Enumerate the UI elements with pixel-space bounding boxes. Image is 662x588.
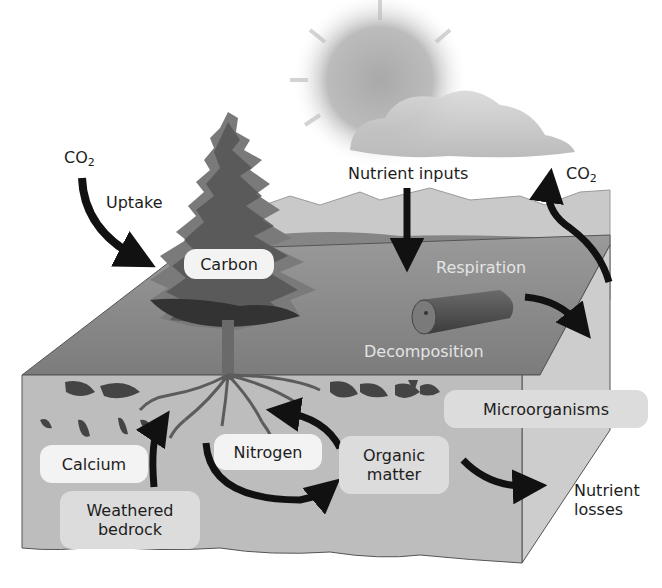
nutrient-text: Nutrient (574, 481, 640, 500)
co2-subscript: 2 (590, 172, 597, 185)
weathered-text: Weathered (86, 501, 173, 520)
bedrock-text: bedrock (98, 520, 162, 539)
organic-text: Organic (363, 446, 425, 465)
nutrient-inputs-label: Nutrient inputs (348, 164, 468, 183)
decomposition-label: Decomposition (364, 342, 484, 361)
co2-right-label: CO2 (566, 164, 597, 188)
nitrogen-label: Nitrogen (214, 434, 322, 470)
uptake-label: Uptake (106, 193, 162, 212)
co2-left-label: CO2 (64, 148, 95, 172)
ground-surface (22, 235, 610, 375)
organic-matter-label: Organic matter (339, 436, 449, 494)
microorganisms-label: Microorganisms (444, 390, 648, 428)
nutrient-losses-label: Nutrient losses (574, 481, 640, 519)
respiration-label: Respiration (436, 258, 526, 277)
co2-text: CO (566, 164, 590, 183)
weathered-bedrock-label: Weathered bedrock (60, 491, 200, 549)
uptake-arrow (82, 178, 138, 258)
co2-subscript: 2 (88, 156, 95, 169)
co2-text: CO (64, 148, 88, 167)
matter-text: matter (367, 465, 421, 484)
carbon-label: Carbon (184, 249, 274, 279)
losses-text: losses (574, 500, 640, 519)
calcium-label: Calcium (40, 445, 148, 483)
